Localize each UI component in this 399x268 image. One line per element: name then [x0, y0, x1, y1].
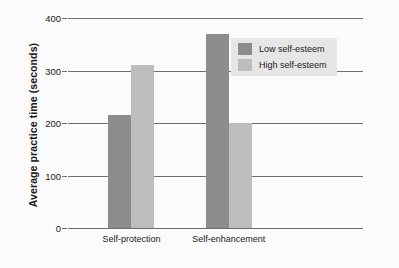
x-axis-label: Self-enhancement [192, 234, 265, 244]
bar [206, 34, 229, 228]
y-axis-title: Average practice time (seconds) [22, 10, 44, 240]
legend-swatch [238, 43, 252, 55]
y-tick-label-400: 400 [45, 13, 61, 24]
legend-label: Low self-esteem [259, 44, 325, 54]
y-tick-label-100: 100 [45, 170, 61, 181]
legend-entry: High self-esteem [238, 59, 327, 71]
y-tick-label-0: 0 [56, 223, 61, 234]
legend-label: High self-esteem [259, 60, 327, 70]
bar [229, 123, 252, 228]
bar [108, 115, 131, 228]
legend-swatch [238, 59, 252, 71]
bar-group [108, 18, 154, 228]
y-tick-mark-300 [62, 71, 67, 72]
x-axis-label: Self-protection [102, 234, 160, 244]
y-tick-label-200: 200 [45, 118, 61, 129]
y-tick-mark-0 [62, 228, 67, 229]
chart-legend: Low self-esteemHigh self-esteem [231, 38, 337, 76]
y-tick-mark-200 [62, 123, 67, 124]
gridline-0 [68, 228, 363, 229]
legend-entry: Low self-esteem [238, 43, 327, 55]
y-tick-mark-100 [62, 176, 67, 177]
y-tick-mark-400 [62, 18, 67, 19]
bar-chart-figure: Average practice time (seconds) 01002003… [0, 0, 399, 268]
bar [131, 65, 154, 228]
y-tick-label-300: 300 [45, 65, 61, 76]
